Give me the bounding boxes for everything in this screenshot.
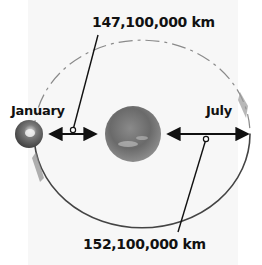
- aphelion-distance-label: 152,100,000 km: [83, 236, 206, 252]
- january-label: January: [11, 103, 65, 118]
- perihelion-distance-arrow: [50, 35, 98, 134]
- july-label: July: [206, 103, 232, 118]
- orbit-graphic: [0, 0, 262, 265]
- sun-icon: [105, 106, 161, 162]
- perihelion-distance-label: 147,100,000 km: [92, 14, 215, 30]
- aphelion-distance-arrow: [168, 134, 248, 232]
- orbit-diagram: 147,100,000 km 152,100,000 km January Ju…: [0, 0, 262, 265]
